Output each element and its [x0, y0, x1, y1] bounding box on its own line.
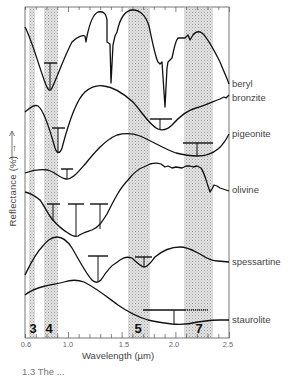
shaded-band-3 — [29, 8, 35, 338]
x-tick-label: 1.0 — [63, 340, 73, 349]
mineral-label-olivine: olivine — [232, 184, 259, 195]
mineral-label-bronzite: bronzite — [232, 92, 266, 103]
band-label-3: 3 — [29, 321, 36, 336]
x-tick-label: 2.0 — [169, 340, 179, 349]
x-tick-label: 2.5 — [223, 340, 233, 349]
band-label-7: 7 — [195, 321, 202, 336]
shaded-band-7 — [184, 8, 213, 338]
x-tick-label: 1.5 — [119, 340, 129, 349]
figure-caption: 1.3 The ... — [22, 366, 65, 377]
absorption-bands — [29, 8, 213, 338]
band-label-5: 5 — [134, 321, 141, 336]
shaded-band-5 — [128, 8, 150, 338]
mineral-label-pigeonite: pigeonite — [232, 128, 271, 139]
shaded-band-4 — [44, 8, 58, 338]
band-label-4: 4 — [45, 321, 52, 336]
y-axis-label: Reflectance (%) → — [2, 130, 22, 240]
mineral-label-beryl: beryl — [232, 78, 253, 89]
x-axis-label: Wavelength (µm) — [82, 350, 154, 361]
x-tick-label: 0.6 — [21, 340, 31, 349]
mineral-label-staurolite: staurolite — [232, 314, 271, 325]
mineral-label-spessartine: spessartine — [232, 256, 281, 267]
